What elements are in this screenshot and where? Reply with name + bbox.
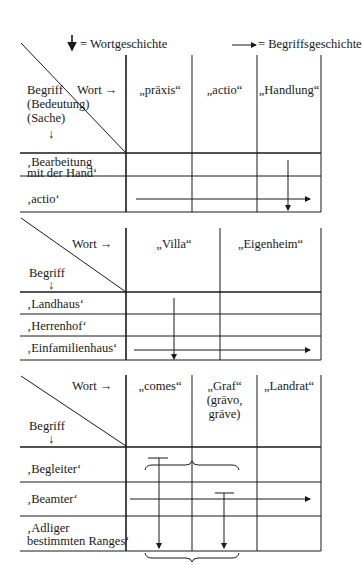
table2-col-header: „Villa“ [128,237,220,251]
table1-corner-word: Wort → [77,83,117,97]
table2-row-label: ‚Landhaus‘ [27,297,84,311]
table1-grid [20,43,321,212]
table3-corner-concept-1: Begriff [29,419,65,433]
table1-corner-concept-2: (Bedeutung) [27,97,89,111]
table3-corner-down-arrow-icon: ↓ [48,432,54,446]
table3-row-label: bestimmten Ranges‘ [27,534,129,548]
table2-row-label: ‚Herrenhof‘ [27,319,87,333]
table1-col-header: „actio“ [192,83,257,97]
table1-corner-down-arrow-icon: ↓ [48,127,54,141]
table3-col-header: „Landrat“ [257,379,321,393]
table3-row-label: ‚Begleiter‘ [27,462,81,476]
table1-corner-concept-3: (Sache) [27,111,65,125]
table3-row-label: ‚Adliger [27,521,69,535]
legend-concept-history-label: = Begriffsgeschichte [258,37,362,51]
table2-row-label: ‚Einfamilienhaus‘ [27,341,117,355]
table3-col-header-sub: (grāvo, [192,393,257,407]
table3-col-header: „Graf“ [192,379,257,393]
table1-row-label: ‚actio‘ [27,192,60,206]
table2-corner-concept-1: Begriff [29,266,65,280]
table3-col-header: „comes“ [128,379,192,393]
table3-corner-word: Wort → [72,379,112,393]
table3-row-label: ‚Beamter‘ [27,492,78,506]
table2-corner-word: Wort → [72,237,112,251]
table1-col-header: „Handlung“ [257,83,321,97]
table1-row-label: mit der Hand‘ [27,166,97,180]
table2-col-header: „Eigenheim“ [220,237,321,251]
legend-word-history-label: = Wortgeschichte [80,37,167,51]
table3-col-header-sub: grāve) [192,407,257,421]
table1-corner-concept-1: Begriff [27,83,63,97]
table1-col-header: „präxis“ [128,83,192,97]
table2-corner-down-arrow-icon: ↓ [48,278,54,292]
